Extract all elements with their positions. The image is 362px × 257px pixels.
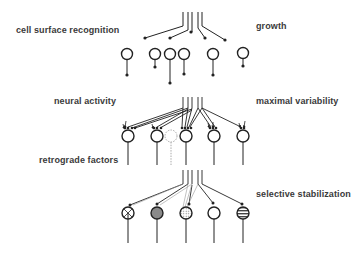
growth-cone-dots: [143, 30, 226, 41]
neuron-crosshatch: [122, 207, 134, 243]
neuron-open: [208, 207, 220, 243]
neuron-gray: [151, 207, 163, 243]
neural-development-diagram: [0, 0, 362, 257]
axon-bundle-bottom: [130, 170, 242, 207]
neuron-striped: [237, 207, 249, 243]
degenerating-neuron: [165, 130, 177, 142]
neuron-dotted: [180, 207, 192, 243]
axon-bundle-middle: [128, 97, 241, 128]
neuron-row-growth: [122, 48, 249, 84]
synapse-dots: [124, 127, 246, 130]
axon-bundle-top: [145, 12, 225, 40]
stage-maximal-variability: [122, 97, 249, 165]
axon-terminal-dots: [125, 64, 244, 84]
neuron-row-variability: [122, 130, 249, 165]
neuron-row-stabilized: [122, 207, 249, 243]
stage-selective-stabilization: [122, 170, 249, 243]
stage-growth: [122, 12, 249, 85]
